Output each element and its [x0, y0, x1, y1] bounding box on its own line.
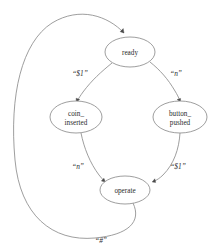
edge-ready-to-coin-inserted: “$1” [72, 63, 112, 102]
node-operate-label: operate [114, 187, 135, 195]
edge-ready-to-coin-inserted-label: “$1” [72, 69, 88, 78]
node-coin-inserted[interactable]: coin_ inserted [50, 101, 102, 133]
state-diagram-canvas: “#” “$1” “n” “n” “$1” [0, 0, 222, 250]
edge-ready-to-button-pushed-path [150, 62, 180, 100]
node-coin-inserted-label-line1: coin_ [68, 110, 84, 118]
edge-ready-to-button-pushed: “n” [150, 62, 182, 102]
edge-coin-inserted-to-operate-path [81, 133, 104, 181]
edge-button-pushed-to-operate: “$1” [152, 133, 186, 182]
node-ready-label: ready [122, 49, 138, 57]
node-ready[interactable]: ready [105, 37, 155, 67]
edge-button-pushed-to-operate-label: “$1” [170, 162, 186, 171]
node-button-pushed-label-line2: pushed [170, 119, 191, 127]
node-coin-inserted-label-line2: inserted [65, 119, 88, 127]
state-diagram-svg: “#” “$1” “n” “n” “$1” [0, 0, 222, 250]
edge-operate-to-ready-label: “#” [95, 236, 107, 245]
node-button-pushed-label-line1: button_ [169, 110, 191, 118]
edge-coin-inserted-to-operate-label: “n” [72, 162, 84, 171]
edge-button-pushed-to-operate-path [154, 133, 180, 181]
edge-coin-inserted-to-operate: “n” [72, 133, 105, 182]
node-operate[interactable]: operate [100, 176, 150, 204]
edge-button-pushed-to-operate-arrowhead [152, 179, 156, 183]
node-button-pushed[interactable]: button_ pushed [153, 101, 207, 133]
edge-ready-to-button-pushed-label: “n” [170, 69, 182, 78]
